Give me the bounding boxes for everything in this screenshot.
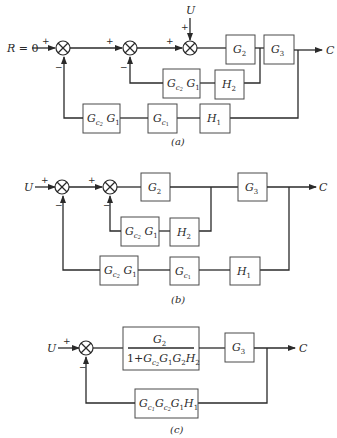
summing-junction-2 bbox=[103, 180, 117, 194]
block-diagram: R = 0 + − + − + U + bbox=[0, 0, 337, 438]
outer-feedback-arrow bbox=[63, 196, 100, 270]
sign-plus: + bbox=[166, 36, 174, 46]
block-h2: H2 bbox=[215, 70, 244, 99]
caption-c: (c) bbox=[170, 424, 184, 435]
inner-feedback-arrow bbox=[110, 196, 121, 231]
block-gc1: Gc1 bbox=[170, 257, 199, 285]
summing-junction-1 bbox=[56, 41, 70, 55]
block-h1: H1 bbox=[230, 257, 260, 285]
summing-junction bbox=[79, 341, 93, 355]
block-gc2-g1-outer: Gc2 G1 bbox=[83, 104, 120, 133]
input-label-u: U bbox=[24, 181, 34, 194]
caption-a: (a) bbox=[171, 136, 185, 147]
svg-text:1+Gc2G1G2H2: 1+Gc2G1G2H2 bbox=[127, 352, 200, 367]
svg-text:Gc2 G1: Gc2 G1 bbox=[167, 77, 200, 92]
summing-junction-1 bbox=[55, 180, 69, 194]
block-gc2-g1-inner: Gc2 G1 bbox=[163, 69, 200, 98]
output-label-c: C bbox=[319, 181, 328, 194]
block-g3: G3 bbox=[264, 35, 294, 64]
inner-feedback-line bbox=[199, 187, 211, 231]
block-forward-transfer-function: G2 1+Gc2G1G2H2 bbox=[123, 327, 200, 370]
block-g3: G3 bbox=[225, 333, 254, 362]
sign-plus: + bbox=[63, 336, 71, 346]
block-h1: H1 bbox=[200, 104, 230, 133]
sign-plus: + bbox=[41, 175, 49, 185]
block-g3: G3 bbox=[238, 173, 267, 201]
block-g2: G2 bbox=[141, 173, 170, 201]
block-g2: G2 bbox=[226, 35, 255, 64]
panel-b: U + − + − G2 G3 C bbox=[24, 173, 328, 305]
svg-text:Gc2 G1: Gc2 G1 bbox=[87, 112, 120, 127]
sign-plus: + bbox=[42, 36, 50, 46]
output-label-c: C bbox=[326, 44, 335, 57]
block-h2: H2 bbox=[170, 218, 199, 246]
summing-junction-2 bbox=[123, 41, 137, 55]
summing-junction-3 bbox=[183, 41, 197, 55]
inner-feedback-arrow bbox=[130, 57, 163, 83]
svg-text:Gc2 G1: Gc2 G1 bbox=[104, 264, 137, 279]
sign-plus: + bbox=[88, 175, 96, 185]
panel-a: R = 0 + − + − + U + bbox=[6, 4, 335, 147]
svg-text:Gc2 G1: Gc2 G1 bbox=[125, 225, 158, 240]
disturbance-label-u: U bbox=[186, 4, 196, 17]
panel-c: U + − G2 1+Gc2G1G2H2 G3 C Gc1Gc2G1H1 bbox=[47, 327, 308, 435]
output-label-c: C bbox=[299, 342, 308, 355]
sign-minus: − bbox=[120, 62, 128, 72]
sign-minus: − bbox=[55, 200, 63, 210]
input-label-u: U bbox=[47, 342, 57, 355]
sign-minus: − bbox=[55, 62, 63, 72]
caption-b: (b) bbox=[171, 294, 185, 305]
block-feedback-gain: Gc1Gc2G1H1 bbox=[135, 389, 198, 418]
block-gc1: Gc1 bbox=[148, 104, 177, 133]
sign-plus: + bbox=[181, 22, 189, 32]
block-gc2-g1-inner: Gc2 G1 bbox=[121, 217, 159, 246]
sign-plus: + bbox=[106, 36, 114, 46]
outer-feedback-arrow bbox=[64, 57, 83, 118]
block-gc2-g1-outer: Gc2 G1 bbox=[100, 256, 138, 285]
